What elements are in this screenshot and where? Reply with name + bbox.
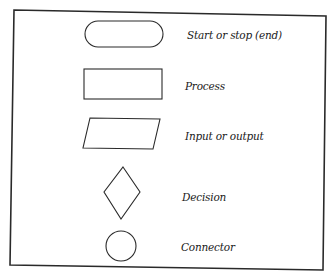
flowchart-symbols-diagram [0,0,332,272]
process-symbol [84,69,162,99]
label-connector: Connector [181,241,235,253]
label-process: Process [185,80,225,92]
decision-symbol [104,167,140,219]
connector-symbol [106,231,136,261]
terminal-symbol [85,21,163,47]
input-output-symbol [83,118,160,149]
label-input-output: Input or output [185,130,264,142]
frame-border [10,10,326,270]
label-terminal: Start or stop (end) [187,29,282,41]
label-decision: Decision [182,191,226,203]
